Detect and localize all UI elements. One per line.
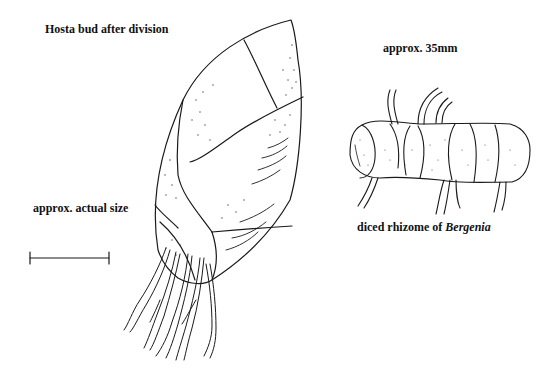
hosta-roots — [124, 248, 216, 360]
illustration — [0, 0, 557, 368]
hosta-title: Hosta bud after division — [45, 22, 168, 36]
scale-bar-label: approx. actual size — [33, 201, 133, 215]
bergenia-caption-prefix: diced rhizome of — [357, 220, 445, 234]
hosta-stipple — [164, 44, 296, 255]
scale-bar — [30, 252, 109, 264]
bergenia-size-label: approx. 35mm — [383, 41, 457, 55]
botanical-figure: Hosta bud after division approx. 35mm ap… — [0, 0, 557, 368]
bergenia-stipple — [359, 139, 515, 170]
hosta-bud-drawing — [155, 20, 303, 284]
bergenia-rhizome-drawing — [350, 88, 530, 214]
bergenia-caption: diced rhizome of Bergenia — [357, 220, 491, 234]
bergenia-genus: Bergenia — [445, 220, 490, 234]
